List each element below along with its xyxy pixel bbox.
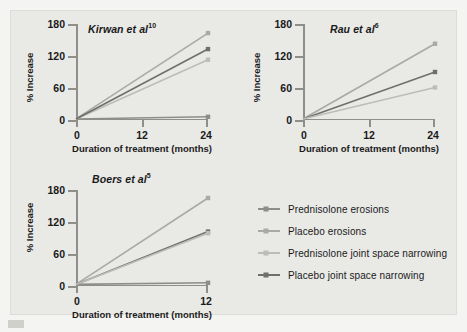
chart-rau-ylabel-60: 60 (280, 82, 292, 94)
chart-boers-ylabel-120: 120 (47, 216, 65, 228)
chart-rau-ylabel-0: 0 (286, 114, 292, 126)
chart-kirwan-ylabel-0: 0 (59, 114, 65, 126)
chart-boers-xlabel-12: 12 (200, 295, 212, 307)
legend-label-prednisolone-erosions: Prednisolone erosions (288, 204, 389, 215)
legend-square-marker-icon (264, 207, 269, 212)
chart-boers-series-layer (76, 190, 208, 286)
chart-rau-xlabel-12: 12 (363, 129, 375, 141)
chart-boers-ytick-180 (68, 190, 76, 192)
chart-kirwan-endpoint-marker-1 (206, 31, 210, 35)
legend-swatch-prednisolone-jsn (258, 248, 280, 258)
legend-swatch-placebo-jsn (258, 270, 280, 280)
chart-rau-xlabel: Duration of treatment (months) (283, 143, 455, 154)
chart-rau-endpoint-marker-1 (433, 70, 437, 74)
legend-square-marker-icon (264, 229, 269, 234)
chart-rau-series-layer (303, 24, 435, 120)
chart-rau-xtick-24 (433, 120, 435, 127)
chart-boers-ylabel: % Increase (24, 198, 35, 258)
chart-kirwan-xlabel: Duration of treatment (months) (56, 143, 228, 154)
legend-label-placebo-joint-space-narrowing: Placebo joint space narrowing (288, 270, 424, 281)
chart-kirwan: Kirwan et al10 % Increase 180 120 60 0 0… (0, 0, 240, 160)
chart-boers-ylabel-60: 60 (53, 248, 65, 260)
chart-legend: Prednisolone erosions Placebo erosions P… (258, 198, 458, 286)
chart-kirwan-series-layer (76, 24, 208, 120)
chart-kirwan-xlabel-0: 0 (74, 129, 80, 141)
chart-kirwan-line-0 (76, 117, 208, 119)
chart-boers-plot: 180 120 60 0 0 12 (76, 190, 208, 286)
chart-kirwan-plot: 180 120 60 0 0 12 24 (76, 24, 208, 120)
chart-rau-ylabel-120: 120 (274, 50, 292, 62)
legend-item-placebo-joint-space-narrowing[interactable]: Placebo joint space narrowing (258, 264, 458, 286)
chart-kirwan-ytick-0 (68, 120, 76, 122)
legend-square-marker-icon (264, 251, 269, 256)
legend-swatch-placebo-erosions (258, 226, 280, 236)
chart-kirwan-xtick-12 (142, 120, 144, 127)
legend-item-prednisolone-joint-space-narrowing[interactable]: Prednisolone joint space narrowing (258, 242, 458, 264)
chart-rau-ylabel-180: 180 (274, 18, 292, 30)
chart-kirwan-ytick-180 (68, 24, 76, 26)
chart-rau-ylabel: % Increase (251, 48, 262, 108)
chart-boers-endpoint-marker-0 (206, 281, 210, 285)
legend-item-prednisolone-erosions[interactable]: Prednisolone erosions (258, 198, 458, 220)
chart-rau: Rau et al6 % Increase 180 120 60 0 0 12 … (230, 0, 467, 160)
chart-boers-xtick-0 (76, 286, 78, 293)
chart-boers-xlabel: Duration of treatment (months) (56, 309, 228, 320)
chart-rau-endpoint-marker-2 (433, 85, 437, 89)
chart-kirwan-ylabel-180: 180 (47, 18, 65, 30)
chart-kirwan-endpoint-marker-2 (206, 58, 210, 62)
chart-boers-ytick-120 (68, 222, 76, 224)
chart-boers: Boers et al5 % Increase 180 120 60 0 0 1… (0, 166, 250, 332)
chart-rau-ytick-120 (295, 56, 303, 58)
chart-rau-line-2 (303, 87, 435, 118)
chart-kirwan-xlabel-12: 12 (136, 129, 148, 141)
chart-kirwan-endpoint-marker-0 (206, 115, 210, 119)
legend-label-prednisolone-joint-space-narrowing: Prednisolone joint space narrowing (288, 248, 447, 259)
chart-rau-xtick-12 (369, 120, 371, 127)
chart-kirwan-ylabel-120: 120 (47, 50, 65, 62)
legend-line-icon (258, 274, 280, 276)
chart-kirwan-endpoint-marker-3 (206, 47, 210, 51)
caption-marker (8, 320, 24, 328)
legend-line-icon (258, 208, 280, 210)
chart-boers-title: Boers et al5 (92, 172, 151, 185)
chart-rau-ytick-60 (295, 88, 303, 90)
chart-kirwan-xtick-0 (76, 120, 78, 127)
chart-rau-line-0 (303, 44, 435, 119)
chart-boers-endpoint-marker-3 (206, 231, 210, 235)
chart-rau-ytick-0 (295, 120, 303, 122)
chart-kirwan-line-3 (76, 49, 208, 119)
chart-boers-title-ref: 5 (147, 172, 151, 179)
chart-boers-ytick-60 (68, 254, 76, 256)
chart-kirwan-line-2 (76, 60, 208, 119)
chart-rau-ytick-180 (295, 24, 303, 26)
chart-kirwan-xlabel-24: 24 (200, 129, 212, 141)
chart-boers-title-name: Boers et al (92, 173, 147, 185)
chart-boers-line-0 (76, 283, 208, 285)
figure-root: Kirwan et al10 % Increase 180 120 60 0 0… (0, 0, 467, 332)
chart-kirwan-xtick-24 (206, 120, 208, 127)
chart-rau-xtick-0 (303, 120, 305, 127)
chart-rau-xlabel-0: 0 (301, 129, 307, 141)
legend-line-icon (258, 230, 280, 232)
chart-boers-xlabel-0: 0 (74, 295, 80, 307)
chart-boers-ylabel-0: 0 (59, 280, 65, 292)
legend-swatch-prednisolone-erosions (258, 204, 280, 214)
legend-square-marker-icon (264, 273, 269, 278)
chart-boers-ytick-0 (68, 286, 76, 288)
chart-kirwan-ylabel-60: 60 (53, 82, 65, 94)
chart-rau-line-1 (303, 72, 435, 119)
chart-rau-plot: 180 120 60 0 0 12 24 (303, 24, 435, 120)
chart-kirwan-line-1 (76, 33, 208, 119)
chart-kirwan-ylabel: % Increase (24, 48, 35, 108)
chart-kirwan-ytick-60 (68, 88, 76, 90)
legend-item-placebo-erosions[interactable]: Placebo erosions (258, 220, 458, 242)
chart-boers-xtick-12 (206, 286, 208, 293)
legend-label-placebo-erosions: Placebo erosions (288, 226, 366, 237)
legend-line-icon (258, 252, 280, 254)
chart-boers-endpoint-marker-1 (206, 196, 210, 200)
chart-kirwan-ytick-120 (68, 56, 76, 58)
chart-rau-xlabel-24: 24 (427, 129, 439, 141)
chart-boers-ylabel-180: 180 (47, 184, 65, 196)
chart-rau-endpoint-marker-0 (433, 42, 437, 46)
